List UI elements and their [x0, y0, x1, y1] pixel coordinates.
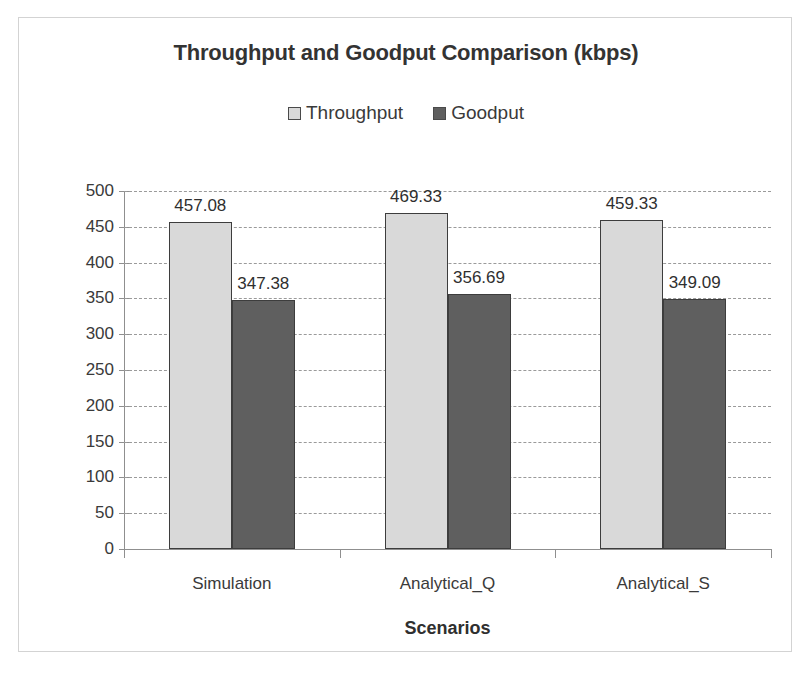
- plot-area: 457.08347.38469.33356.69459.33349.09 Sim…: [124, 191, 771, 549]
- bar-goodput-analytical_q: [448, 294, 511, 549]
- plot-wrapper: Mean transmission rate (kbps) 0501001502…: [19, 18, 793, 653]
- y-axis-tick-label: 200: [19, 396, 114, 416]
- bar-value-label: 349.09: [669, 273, 721, 293]
- y-axis-tick-label: 350: [19, 288, 114, 308]
- x-axis-tick: [555, 549, 556, 558]
- x-axis-tick: [771, 549, 772, 558]
- bar-value-label: 459.33: [606, 194, 658, 214]
- bar-throughput-analytical_q: [385, 213, 448, 549]
- bar-value-label: 457.08: [174, 196, 226, 216]
- x-axis-tick: [340, 549, 341, 558]
- y-axis-tick-label: 50: [19, 503, 114, 523]
- y-axis-tick-label: 100: [19, 467, 114, 487]
- gridline: [124, 549, 771, 550]
- y-axis-tick-label: 400: [19, 253, 114, 273]
- chart-frame: Throughput and Goodput Comparison (kbps)…: [18, 17, 792, 652]
- x-axis-tick: [124, 549, 125, 558]
- x-axis-category-label: Analytical_Q: [400, 574, 495, 594]
- y-axis-tick-label: 0: [19, 539, 114, 559]
- bar-value-label: 356.69: [453, 268, 505, 288]
- gridline: [124, 191, 771, 192]
- bar-value-label: 469.33: [390, 187, 442, 207]
- x-axis-category-label: Analytical_S: [616, 574, 710, 594]
- y-axis-tick-label: 300: [19, 324, 114, 344]
- bar-throughput-analytical_s: [600, 220, 663, 549]
- x-axis-category-label: Simulation: [192, 574, 271, 594]
- bar-goodput-analytical_s: [663, 299, 726, 549]
- bar-throughput-simulation: [169, 222, 232, 549]
- y-axis-tick-label: 250: [19, 360, 114, 380]
- bar-goodput-simulation: [232, 300, 295, 549]
- y-axis-tick-label: 450: [19, 217, 114, 237]
- bar-value-label: 347.38: [237, 274, 289, 294]
- y-axis-tick-label: 150: [19, 432, 114, 452]
- y-axis-tick-label: 500: [19, 181, 114, 201]
- x-axis-title: Scenarios: [124, 618, 771, 639]
